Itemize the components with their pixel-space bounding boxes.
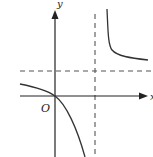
x-axis-arrow-icon — [139, 93, 148, 100]
origin-label: O — [41, 102, 50, 115]
curve-lower-left-branch — [20, 84, 85, 157]
y-axis-label: y — [56, 0, 63, 9]
function-graph: y x O — [0, 0, 153, 157]
curve-upper-right-branch — [107, 9, 148, 60]
y-axis-arrow-icon — [52, 10, 59, 19]
x-axis-label: x — [150, 91, 153, 102]
